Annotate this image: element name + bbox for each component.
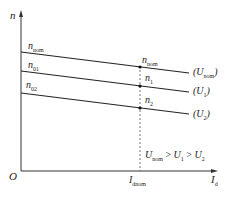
label-unom-curve: (Unom) bbox=[193, 66, 218, 79]
label-n02-left: n02 bbox=[26, 79, 37, 92]
label-nnom-point: nnom bbox=[142, 54, 158, 67]
point-n2 bbox=[138, 106, 141, 109]
label-n01-left: n01 bbox=[28, 59, 39, 72]
label-n2-point: n2 bbox=[145, 94, 153, 107]
label-nnom-left: nnom bbox=[28, 40, 44, 53]
label-u2-curve: (U2) bbox=[193, 108, 211, 121]
label-u1-curve: (U1) bbox=[193, 85, 211, 98]
point-n1 bbox=[138, 84, 141, 87]
y-axis-arrow-icon bbox=[19, 10, 23, 17]
origin-label: O bbox=[9, 170, 17, 182]
speed-characteristic-diagram: n O Id nnom n01 n02 nnom n1 n2 (Unom) (U… bbox=[0, 0, 229, 197]
label-idnom: Idnom bbox=[128, 174, 146, 187]
curve-unom bbox=[21, 52, 189, 73]
curve-u1 bbox=[21, 71, 189, 92]
x-axis-label: Id bbox=[210, 173, 218, 187]
y-axis-label: n bbox=[10, 9, 16, 21]
voltage-relation: Unom > U1 > U2 bbox=[145, 149, 205, 162]
point-nnom bbox=[138, 65, 141, 68]
curve-u2 bbox=[21, 93, 189, 114]
label-n1-point: n1 bbox=[145, 72, 153, 85]
